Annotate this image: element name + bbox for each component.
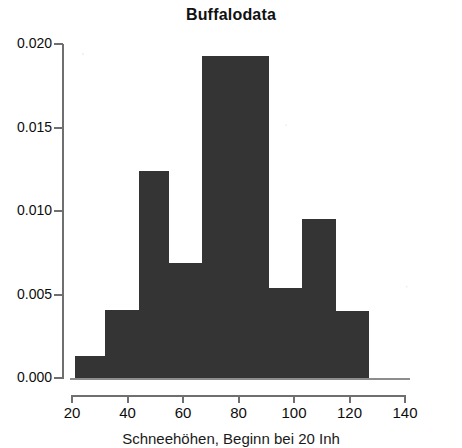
x-axis-label: Schneehöhen, Beginn bei 20 Inh — [0, 430, 462, 447]
x-axis-tick — [182, 395, 184, 403]
x-axis-tick — [127, 395, 129, 403]
x-axis-tick-label: 20 — [42, 404, 102, 421]
histogram-figure: Buffalodata 0.0000.0050.0100.0150.020 20… — [0, 0, 462, 448]
histogram-bars — [72, 44, 405, 378]
histogram-bar — [202, 56, 235, 378]
x-axis-tick — [404, 395, 406, 403]
histogram-bar — [336, 311, 369, 378]
x-axis-tick — [293, 395, 295, 403]
histogram-bar — [75, 356, 106, 378]
y-axis-tick — [54, 210, 63, 212]
x-axis-tick — [238, 395, 240, 403]
y-axis-tick — [54, 43, 63, 45]
y-axis-tick — [54, 127, 63, 129]
y-axis-tick-label: 0.015 — [0, 119, 52, 135]
y-axis-tick-label: 0.000 — [0, 369, 52, 385]
x-axis-tick — [71, 395, 73, 403]
y-axis-tick-label: 0.010 — [0, 202, 52, 218]
y-axis-tick-label: 0.020 — [0, 35, 52, 51]
histogram-bar — [269, 288, 302, 378]
y-axis-tick — [54, 294, 63, 296]
chart-title: Buffalodata — [0, 6, 462, 24]
plot-area — [72, 44, 405, 378]
x-axis-tick — [349, 395, 351, 403]
histogram-bar — [236, 56, 269, 378]
x-axis-tick-label: 100 — [264, 404, 324, 421]
x-axis-tick-label: 60 — [153, 404, 213, 421]
plot-baseline — [70, 378, 410, 380]
histogram-bar — [169, 263, 202, 378]
x-axis-tick-label: 140 — [375, 404, 435, 421]
histogram-bar — [302, 219, 335, 378]
y-axis-tick-label: 0.005 — [0, 286, 52, 302]
histogram-bar — [139, 171, 170, 378]
x-axis-tick-label: 40 — [98, 404, 158, 421]
x-axis-tick-label: 120 — [320, 404, 380, 421]
x-axis-tick-label: 80 — [209, 404, 269, 421]
y-axis-tick — [54, 377, 63, 379]
histogram-bar — [105, 310, 138, 378]
y-axis-tick-labels: 0.0000.0050.0100.0150.020 — [0, 0, 52, 448]
